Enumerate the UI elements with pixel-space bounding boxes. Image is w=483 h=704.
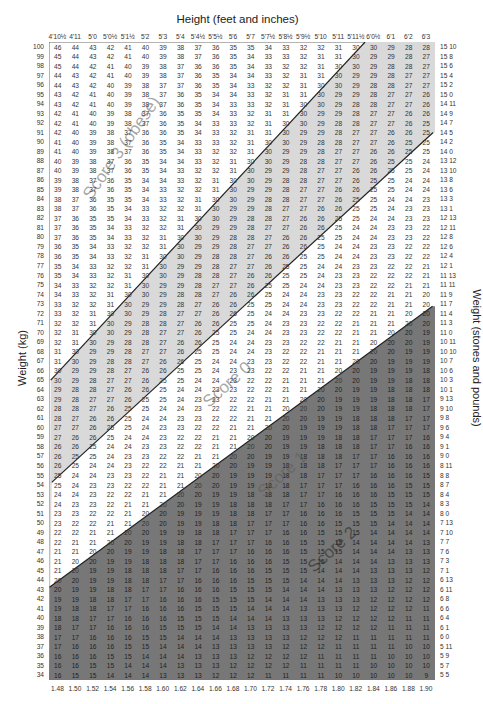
table-cell: 26 (189, 338, 207, 348)
table-cell: 40 (119, 62, 137, 72)
table-cell: 14 (417, 500, 435, 510)
table-cell: 23 (67, 509, 85, 519)
table-cell: 13 (365, 566, 383, 576)
table-cell: 22 (84, 519, 102, 529)
table-cell: 23 (382, 223, 400, 233)
table-cell: 31 (224, 166, 242, 176)
table-cell: 26 (330, 195, 348, 205)
table-cell: 33 (172, 166, 190, 176)
table-cell: 27 (102, 385, 120, 395)
table-cell: 33 (119, 223, 137, 233)
table-cell: 15 (207, 595, 225, 605)
row-label-stones: 8 0 (440, 510, 449, 517)
table-cell: 25 (330, 233, 348, 243)
table-cell: 19 (154, 538, 172, 548)
table-cell: 21 (330, 338, 348, 348)
table-cell: 14 (207, 633, 225, 643)
table-cell: 26 (84, 414, 102, 424)
table-cell: 15 (84, 671, 102, 681)
table-cell: 23 (67, 500, 85, 510)
table-cell: 28 (260, 214, 278, 224)
table-cell: 25 (417, 119, 435, 129)
table-cell: 35 (154, 138, 172, 148)
table-cell: 17 (207, 557, 225, 567)
table-cell: 35 (102, 204, 120, 214)
table-cell: 30 (49, 376, 67, 386)
table-cell: 15 (382, 490, 400, 500)
table-cell: 18 (189, 538, 207, 548)
table-cell: 12 (242, 661, 260, 671)
table-cell: 13 (260, 642, 278, 652)
table-cell: 29 (207, 233, 225, 243)
row-label-stones: 7 13 (440, 519, 453, 526)
table-cell: 16 (330, 490, 348, 500)
table-cell: 27 (224, 281, 242, 291)
row-label-kg: 56 (20, 462, 44, 469)
row-label-stones: 9 13 (440, 395, 453, 402)
table-cell: 26 (207, 300, 225, 310)
table-cell: 20 (330, 385, 348, 395)
table-cell: 18 (330, 433, 348, 443)
table-cell: 20 (154, 509, 172, 519)
table-cell: 18 (49, 623, 67, 633)
row-label-stones: 10 3 (440, 376, 453, 383)
table-cell: 27 (84, 395, 102, 405)
table-cell: 34 (242, 71, 260, 81)
table-cell: 24 (365, 214, 383, 224)
table-cell: 13 (382, 557, 400, 567)
table-cell: 16 (260, 538, 278, 548)
table-cell: 16 (172, 585, 190, 595)
table-cell: 35 (49, 271, 67, 281)
table-cell: 27 (295, 185, 313, 195)
table-cell: 15 (172, 623, 190, 633)
table-cell: 15 (277, 576, 295, 586)
row-label-stones: 11 0 (440, 329, 452, 336)
table-cell: 32 (224, 147, 242, 157)
row-label-stones: 10 7 (440, 357, 453, 364)
table-cell: 18 (207, 528, 225, 538)
table-cell: 31 (67, 328, 85, 338)
table-cell: 23 (260, 357, 278, 367)
table-cell: 31 (137, 262, 155, 272)
table-cell: 29 (330, 100, 348, 110)
table-cell: 10 (400, 671, 418, 681)
table-cell: 36 (154, 128, 172, 138)
table-cell: 18 (365, 423, 383, 433)
table-cell: 20 (400, 309, 418, 319)
table-cell: 20 (137, 519, 155, 529)
table-cell: 33 (260, 52, 278, 62)
table-cell: 21 (137, 490, 155, 500)
row-label-kg: 84 (20, 195, 44, 202)
table-cell: 25 (67, 452, 85, 462)
table-cell: 17 (365, 452, 383, 462)
table-cell: 44 (49, 71, 67, 81)
table-cell: 20 (102, 538, 120, 548)
table-cell: 28 (295, 166, 313, 176)
table-cell: 25 (207, 338, 225, 348)
table-cell: 24 (137, 414, 155, 424)
row-label-kg: 57 (20, 452, 44, 459)
table-cell: 18 (154, 557, 172, 567)
table-cell: 31 (295, 90, 313, 100)
table-cell: 27 (207, 281, 225, 291)
table-cell: 27 (189, 309, 207, 319)
row-label-stones: 6 6 (440, 605, 449, 612)
table-cell: 19 (312, 423, 330, 433)
table-cell: 21 (154, 490, 172, 500)
table-cell: 36 (67, 214, 85, 224)
table-cell: 36 (172, 90, 190, 100)
table-cell: 32 (224, 138, 242, 148)
table-cell: 28 (84, 385, 102, 395)
table-cell: 29 (189, 252, 207, 262)
table-cell: 20 (224, 452, 242, 462)
table-cell: 18 (172, 538, 190, 548)
table-cell: 17 (295, 490, 313, 500)
column-header: 5'9½ (294, 33, 312, 40)
table-cell: 31 (189, 195, 207, 205)
table-cell: 27 (242, 262, 260, 272)
table-cell: 24 (67, 490, 85, 500)
table-cell: 16 (189, 576, 207, 586)
table-cell: 32 (242, 109, 260, 119)
table-cell: 36 (172, 100, 190, 110)
table-cell: 30 (67, 357, 85, 367)
